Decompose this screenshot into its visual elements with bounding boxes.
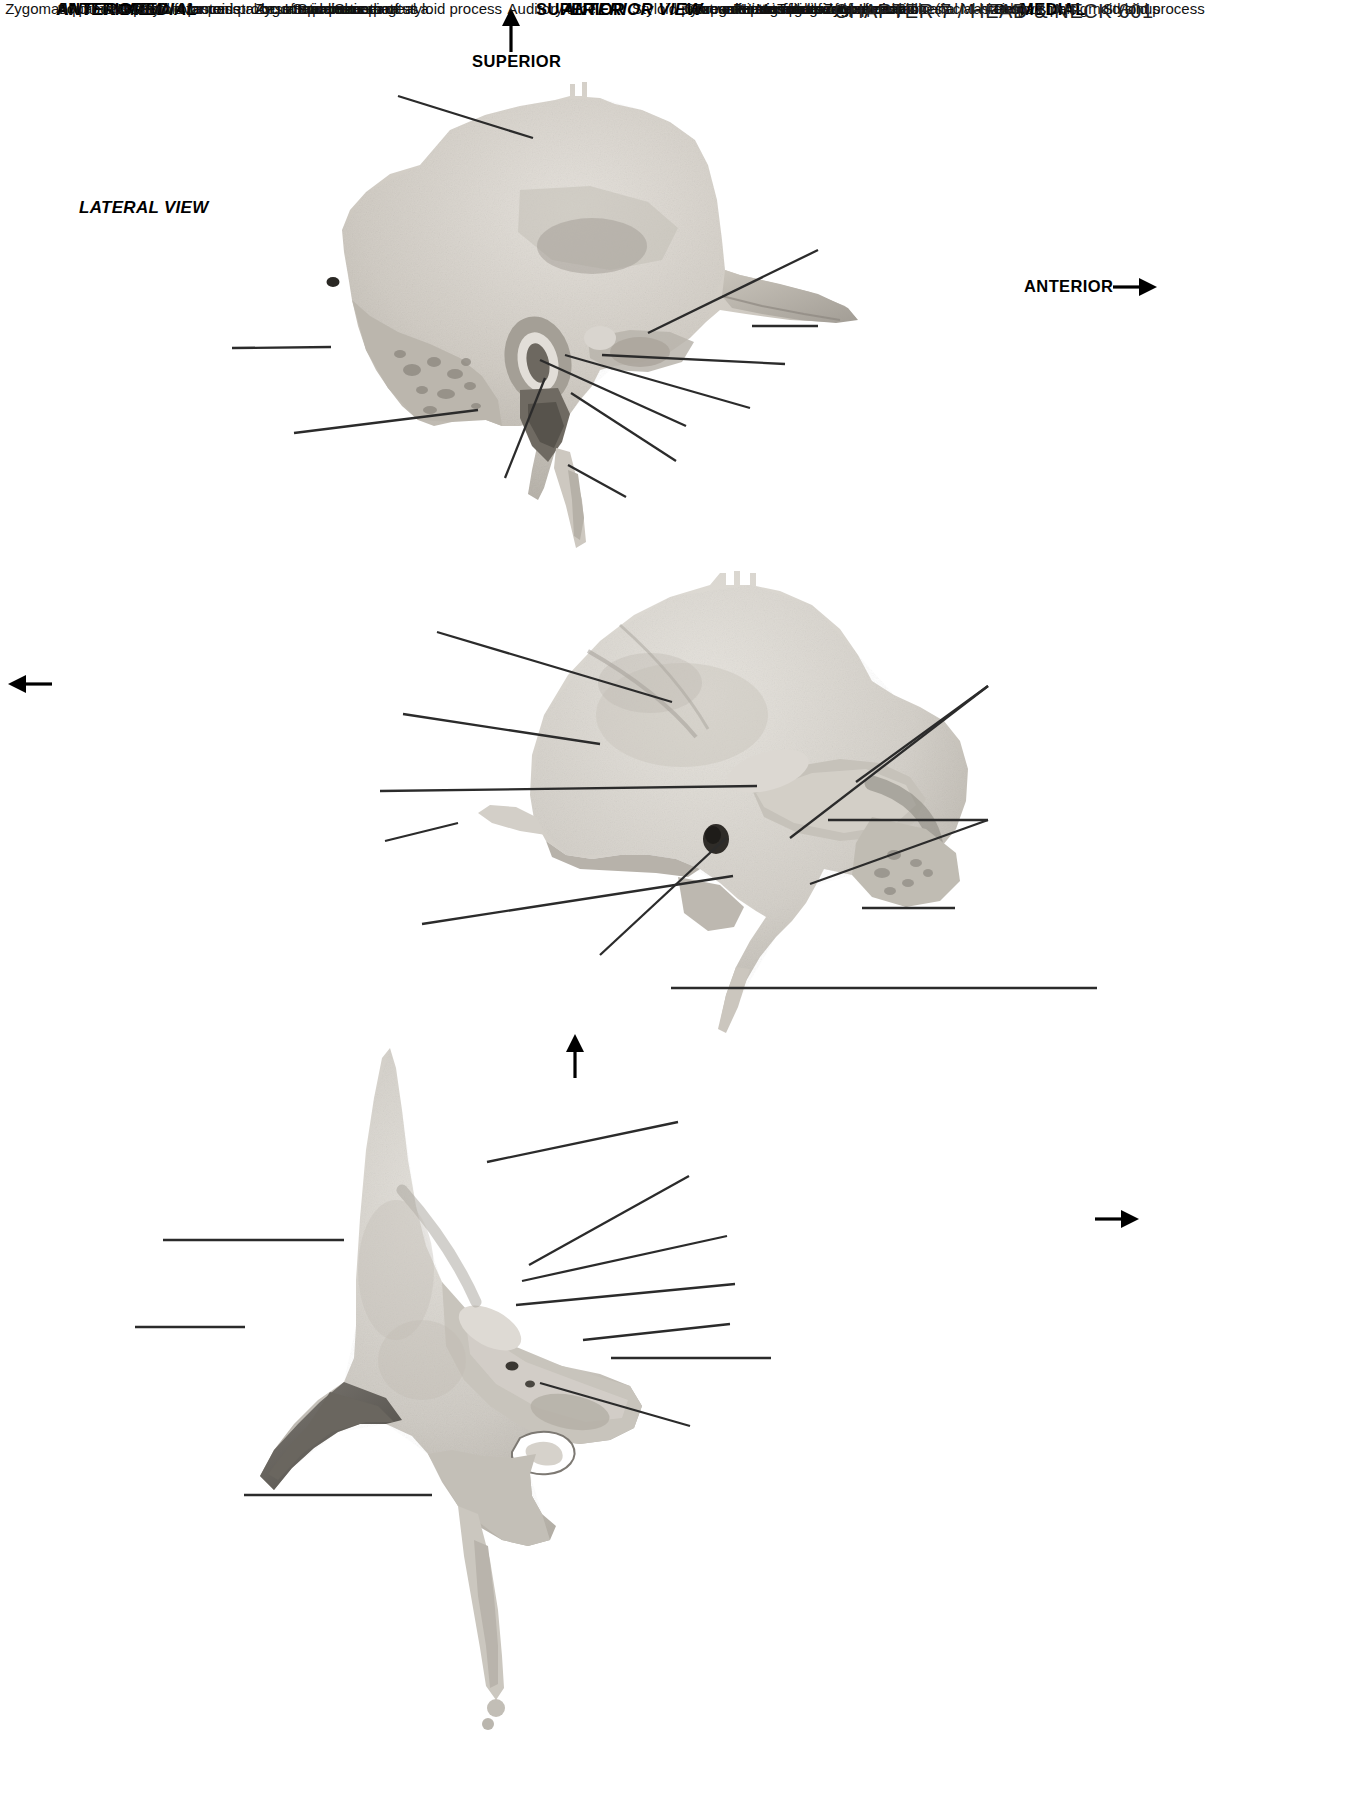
label-int-acoustic-meatus: Int. acoustic meatus (285, 0, 418, 17)
label-styloid-process-anterior: Styloid process (138, 0, 240, 17)
view-name-anterior: ANTERIOR VIEW (562, 0, 703, 20)
mastoid-foramen-hole (327, 277, 340, 287)
label-zygomatic-process-anterior: Zygomatic process (5, 0, 131, 17)
temporal-bone-anteromedial-photo (420, 555, 1060, 1055)
lesser-petrosal-hiatus-hole (525, 1381, 535, 1388)
temporal-bone-lateral-photo (270, 70, 870, 530)
direction-label-superior-lateral: SUPERIOR (472, 52, 561, 71)
page-footer: CHAPTER 7 / HEAD & NECK 601 (834, 0, 1154, 23)
view-name-lateral: LATERAL VIEW (79, 198, 209, 218)
temporal-bone-anterior-photo (190, 1040, 790, 1740)
orientation-arrow-anterior-anteromedial (8, 673, 52, 695)
direction-label-anterior-lateral: ANTERIOR (1024, 277, 1113, 296)
orientation-arrow-anterior-lateral (1113, 276, 1157, 298)
anatomy-figure: SUPERIOR ANTERIOR LATERAL VIEW Squamous … (0, 0, 1356, 1806)
orientation-arrow-superior-anterior (558, 1034, 592, 1078)
orientation-arrow-medial-anterior (1095, 1208, 1139, 1230)
facial-hiatus-hole (506, 1362, 519, 1371)
